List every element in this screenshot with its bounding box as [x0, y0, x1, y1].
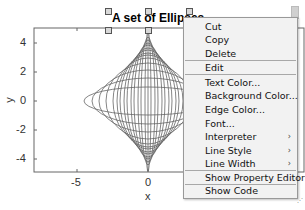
resize-grip-icon[interactable]: ⋰	[297, 197, 303, 203]
menu-item-line-width[interactable]: Line Width›	[184, 157, 297, 170]
menu-item-show-property-editor[interactable]: Show Property Editor	[184, 171, 297, 184]
y-tick-label: -4	[16, 152, 26, 164]
submenu-arrow-icon: ›	[288, 157, 291, 170]
menu-item-background-color[interactable]: Background Color...	[184, 89, 297, 102]
menu-item-line-style[interactable]: Line Style›	[184, 144, 297, 157]
submenu-arrow-icon: ›	[288, 144, 291, 157]
menu-item-text-color[interactable]: Text Color...	[184, 76, 297, 89]
x-tick-label: -5	[71, 176, 81, 188]
menu-separator	[185, 74, 296, 75]
menu-item-cut[interactable]: Cut	[184, 20, 297, 33]
selection-handle[interactable]	[105, 8, 112, 15]
menu-item-interpreter[interactable]: Interpreter›	[184, 130, 297, 143]
y-axis-label[interactable]: y	[3, 97, 15, 103]
context-menu: Cut Copy Delete Edit Text Color... Backg…	[183, 17, 298, 199]
y-tick-label: 4	[20, 36, 26, 48]
menu-item-edge-color[interactable]: Edge Color...	[184, 103, 297, 116]
selection-handle[interactable]	[145, 8, 152, 15]
x-axis-label[interactable]: x	[145, 190, 151, 202]
selection-handle[interactable]	[145, 27, 152, 34]
y-tick-label: -2	[16, 123, 26, 135]
menu-item-delete[interactable]: Delete	[184, 47, 297, 60]
y-tick-label: 0	[20, 94, 26, 106]
menu-item-edit[interactable]: Edit	[184, 61, 297, 74]
selection-handle[interactable]	[105, 27, 112, 34]
selection-handle[interactable]	[186, 8, 193, 15]
x-tick-label: 0	[145, 176, 151, 188]
menu-item-copy[interactable]: Copy	[184, 33, 297, 46]
menu-item-show-code[interactable]: Show Code	[184, 184, 297, 197]
y-tick-label: 2	[20, 65, 26, 77]
menu-item-font[interactable]: Font...	[184, 117, 297, 130]
submenu-arrow-icon: ›	[288, 130, 291, 143]
